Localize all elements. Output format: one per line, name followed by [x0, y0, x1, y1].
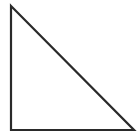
- right-triangle-shape: [11, 6, 134, 130]
- figure-canvas: [0, 0, 139, 137]
- triangle-diagram: [0, 0, 139, 137]
